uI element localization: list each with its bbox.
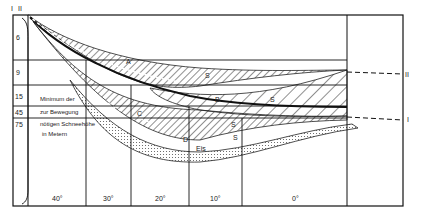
label-i-top: I <box>11 5 13 12</box>
depth-75: 75 <box>15 121 23 128</box>
zone-b: B <box>215 96 220 103</box>
label-ii-top: II <box>18 5 22 12</box>
note-line-1: Minimum der <box>40 96 75 102</box>
depth-45: 45 <box>15 109 23 116</box>
label-i-right: I <box>407 116 409 123</box>
zone-eis: Eis <box>196 145 206 152</box>
slope-0: 0° <box>292 195 299 202</box>
slope-20: 20° <box>155 195 166 202</box>
depth-6: 6 <box>16 34 20 41</box>
zone-c: C <box>137 110 142 117</box>
note-line-4: in Metern <box>42 131 67 137</box>
zone-s2: S <box>270 96 275 103</box>
zone-s3: S <box>231 121 236 128</box>
note-line-3: nötigen Schneehöhe <box>40 121 96 127</box>
label-ii-right: II <box>405 71 409 78</box>
note-line-2: zur Bewegung <box>40 109 78 115</box>
snow-layer-diagram: I II II I 6 9 15 45 75 Minimum der zur B… <box>0 0 427 222</box>
slope-40: 40° <box>52 195 63 202</box>
slope-30: 30° <box>103 195 114 202</box>
zone-s1: S <box>205 72 210 79</box>
layer-a-region <box>28 15 347 87</box>
slope-10: 10° <box>210 195 221 202</box>
zone-s4: S <box>233 134 238 141</box>
depth-9: 9 <box>16 69 20 76</box>
depth-15: 15 <box>15 93 23 100</box>
zone-a: A <box>126 58 131 65</box>
zone-d: D <box>183 136 188 143</box>
